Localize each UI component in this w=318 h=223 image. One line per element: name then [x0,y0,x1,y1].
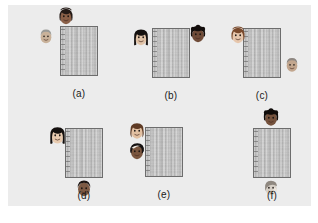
face-brown-wavy-icon [127,120,147,141]
panel-e-caption: (e) [125,189,203,200]
panel-b-axis-ticks [153,31,157,75]
panel-e-image-patch [145,127,183,177]
figure-root: (a) (b) (c) [0,0,318,223]
panel-a-caption: (a) [40,88,118,99]
panel-a-axis-ticks [61,29,65,73]
face-grey-short-icon [283,55,301,74]
face-black-long-hair-icon [47,124,68,146]
face-auburn-bob-icon [228,25,248,45]
panel-d-image-patch [65,128,103,178]
panel-c-image-patch [243,28,281,78]
panel-c-caption: (c) [223,90,301,101]
face-dark-side-icon [127,141,147,161]
panel-b-image-patch [152,28,190,78]
panel-f-axis-ticks [254,131,258,175]
panel-d-caption: (d) [45,190,123,201]
panel-f-image-patch [253,128,291,178]
panel-a-image-patch [60,26,98,76]
face-dark-bob-icon [56,6,76,26]
face-light-short-icon [37,26,55,46]
panel-b-caption: (b) [132,90,210,101]
face-dark-top-icon [261,107,281,128]
face-dark-curly-icon [187,24,209,44]
panel-f-caption: (f) [233,190,311,201]
face-long-black-hair-icon [131,26,151,48]
